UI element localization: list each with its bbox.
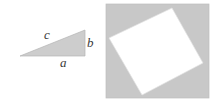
pythagorean-figure: c b a [0,0,217,103]
right-triangle-panel [0,0,217,103]
side-label-a: a [60,56,67,69]
side-label-b: b [87,36,94,49]
side-label-c: c [44,28,50,41]
right-triangle-shape [20,30,85,56]
figure-canvas [0,0,217,103]
